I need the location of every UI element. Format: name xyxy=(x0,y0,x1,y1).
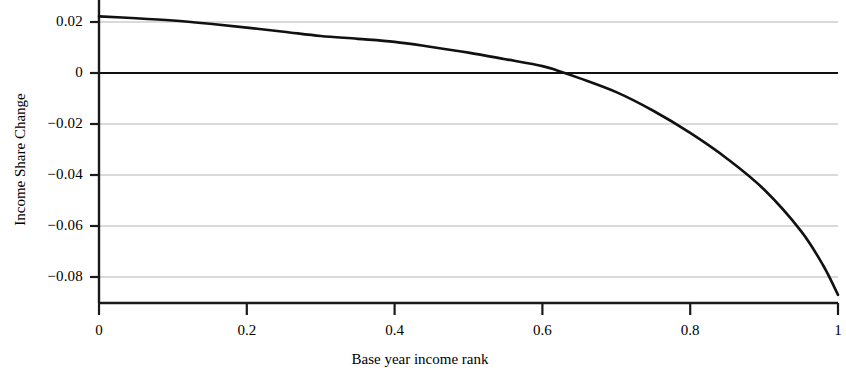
x-tick-label: 0.8 xyxy=(650,323,730,338)
x-tick-label: 0.4 xyxy=(355,323,435,338)
x-tick-mark-group xyxy=(99,303,838,315)
y-axis-title: Income Share Change xyxy=(13,70,28,250)
x-tick-label: 1 xyxy=(798,323,846,338)
y-tick-label: −0.08 xyxy=(0,269,83,284)
x-tick-label: 0 xyxy=(59,323,139,338)
data-curve-income-share-change xyxy=(99,16,838,294)
x-tick-label: 0.6 xyxy=(502,323,582,338)
y-tick-label: 0.02 xyxy=(0,14,83,29)
gridline-group xyxy=(99,22,838,277)
x-tick-label: 0.2 xyxy=(207,323,287,338)
x-axis-title: Base year income rank xyxy=(0,352,840,367)
y-tick-mark-group xyxy=(90,22,99,277)
